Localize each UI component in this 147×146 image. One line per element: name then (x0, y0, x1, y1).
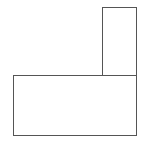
wide-rectangle (13, 75, 137, 136)
diagram-canvas (0, 0, 147, 146)
tall-rectangle (102, 7, 137, 76)
